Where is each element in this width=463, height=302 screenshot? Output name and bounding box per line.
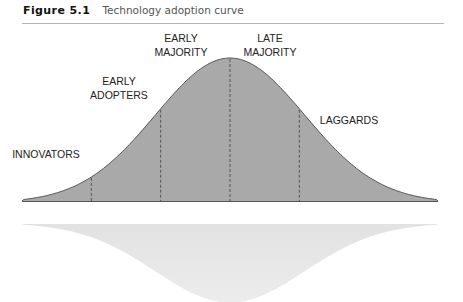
segment-label-early-majority: EARLYMAJORITY [154,32,207,58]
segment-label-early-adopters: EARLYADOPTERS [90,75,148,101]
segment-label-line: LATE [257,32,282,44]
segment-label-line: ADOPTERS [90,89,148,101]
segment-label-innovators: INNOVATORS [12,148,80,160]
segment-label-line: MAJORITY [154,46,207,58]
segment-label-line: INNOVATORS [12,148,80,160]
segment-label-line: EARLY [164,32,198,44]
segment-label-late-majority: LATEMAJORITY [243,32,296,58]
curve-reflection [22,224,438,302]
segment-label-line: MAJORITY [243,46,296,58]
segment-label-line: LAGGARDS [320,114,378,126]
segment-label-laggards: LAGGARDS [320,114,378,126]
segment-label-line: EARLY [102,75,136,87]
adoption-curve-chart: INNOVATORSEARLYADOPTERSEARLYMAJORITYLATE… [0,0,463,302]
